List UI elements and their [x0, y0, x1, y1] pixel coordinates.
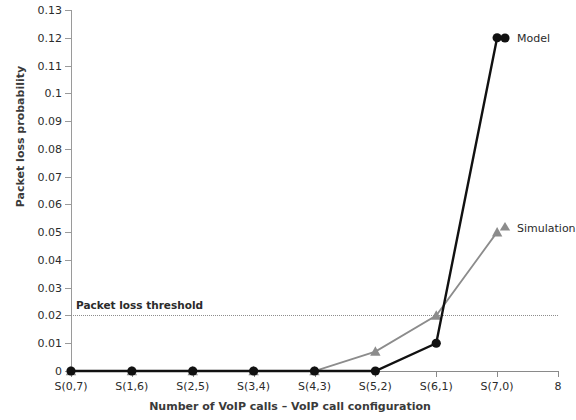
data-point-marker-circle: [493, 33, 502, 42]
data-point-marker-circle: [371, 366, 380, 375]
x-tick-label: S(5,2): [359, 380, 392, 393]
y-tick-label: 0.03: [38, 281, 63, 294]
series-line-simulation: [71, 232, 497, 371]
y-tick-label: 0.01: [38, 337, 63, 350]
y-tick-label: 0.02: [38, 309, 63, 322]
data-point-marker-triangle: [492, 227, 502, 236]
y-tick-label: 0.06: [38, 198, 63, 211]
y-tick-label: 0.11: [38, 59, 63, 72]
data-point-marker-circle: [249, 366, 258, 375]
y-tick-label: 0.09: [38, 115, 63, 128]
x-tick-label: S(7,0): [481, 380, 514, 393]
data-point-marker-circle: [432, 339, 441, 348]
x-tick-mark: [558, 371, 559, 377]
y-tick-label: 0.12: [38, 31, 63, 44]
data-point-marker-circle: [127, 366, 136, 375]
data-point-marker-circle: [188, 366, 197, 375]
y-tick-label: 0.05: [38, 226, 63, 239]
x-tick-label: S(6,1): [420, 380, 453, 393]
x-tick-label: S(3,4): [237, 380, 270, 393]
x-tick-label: S(0,7): [54, 380, 87, 393]
series-plot: [71, 10, 558, 372]
y-tick-label: 0.07: [38, 170, 63, 183]
x-tick-label: S(4,3): [298, 380, 331, 393]
x-tick-label: S(2,5): [176, 380, 209, 393]
data-point-marker-circle: [310, 366, 319, 375]
y-axis-title: Packet loss probability: [14, 37, 27, 237]
y-tick-label: 0.08: [38, 142, 63, 155]
x-axis-title: Number of VoIP calls – VoIP call configu…: [60, 400, 520, 413]
plot-area: 00.010.020.030.040.050.060.070.080.090.1…: [71, 10, 558, 372]
series-line-model: [71, 38, 497, 371]
legend-label-simulation: Simulation: [517, 222, 576, 235]
y-tick-label: 0: [55, 365, 62, 378]
y-tick-label: 0.13: [38, 4, 63, 17]
y-tick-label: 0.04: [38, 253, 63, 266]
x-tick-label: S(1,6): [115, 380, 148, 393]
data-point-marker-triangle: [370, 346, 380, 355]
data-point-marker-circle: [66, 366, 75, 375]
y-tick-label: 0.1: [45, 87, 63, 100]
x-tick-label: 8: [555, 380, 562, 393]
legend-label-model: Model: [517, 32, 550, 45]
